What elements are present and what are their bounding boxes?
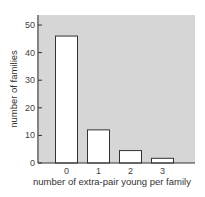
y-tick-label: 40 (25, 48, 35, 58)
y-tick-label: 0 (30, 158, 35, 168)
bar-chart: 01020304050 0123 number of families numb… (0, 0, 205, 197)
y-tick-label: 10 (25, 130, 35, 140)
x-tick-label: 1 (96, 166, 101, 176)
x-axis-title: number of extra-pair young per family (33, 176, 191, 187)
bar-2 (120, 151, 142, 163)
x-tick-label: 0 (64, 166, 69, 176)
y-axis-title: number of families (8, 50, 19, 128)
bar-1 (88, 130, 110, 163)
y-tick-label: 50 (25, 20, 35, 30)
x-tick-label: 3 (160, 166, 165, 176)
y-tick-label: 20 (25, 103, 35, 113)
bar-0 (56, 36, 78, 163)
x-tick-label: 2 (128, 166, 133, 176)
bar-3 (152, 158, 174, 163)
y-tick-label: 30 (25, 75, 35, 85)
